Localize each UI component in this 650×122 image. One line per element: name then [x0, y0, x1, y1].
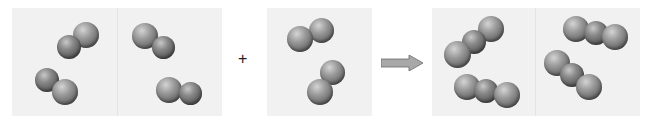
- atom: [576, 74, 602, 100]
- panel-divider: [117, 8, 118, 116]
- atom: [179, 82, 202, 105]
- atom: [52, 79, 78, 105]
- reactant-1-panel: [12, 8, 222, 116]
- atom: [57, 35, 81, 59]
- atom: [287, 26, 313, 52]
- panel-divider: [535, 8, 536, 116]
- atom: [307, 79, 333, 105]
- atom: [494, 82, 520, 108]
- reactant-2-panel: [267, 8, 372, 116]
- atom: [444, 41, 471, 68]
- atom: [602, 24, 628, 50]
- plus-operator: +: [238, 50, 247, 68]
- reaction-arrow-icon: [381, 55, 425, 71]
- atom: [156, 77, 182, 103]
- atom: [152, 36, 175, 59]
- product-panel: [432, 8, 640, 116]
